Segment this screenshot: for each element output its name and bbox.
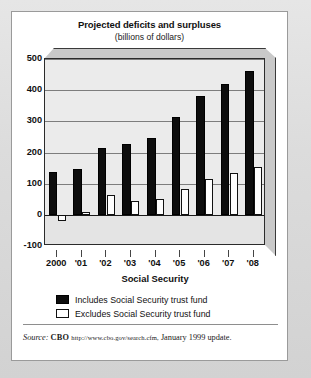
bar-includes-06	[196, 96, 205, 215]
y-axis-tick-label: 200	[12, 147, 42, 157]
figure-container: Projected deficits and surpluses (billio…	[11, 11, 288, 361]
x-axis-tick-mark	[105, 250, 106, 257]
gridline	[45, 90, 264, 91]
x-axis-tick-mark	[155, 250, 156, 257]
y-axis-tick-label: 300	[12, 115, 42, 125]
chart-title: Projected deficits and surpluses	[12, 19, 287, 30]
bar-excludes-03	[131, 201, 139, 215]
bar-includes-04	[147, 138, 156, 215]
x-axis-tick-mark	[228, 250, 229, 257]
bar-includes-03	[122, 144, 131, 215]
x-axis-tick-label: '02	[99, 258, 111, 268]
legend-item-includes: Includes Social Security trust fund	[56, 293, 266, 306]
y-axis-tick-label: -100	[12, 240, 42, 250]
legend-label-excludes: Excludes Social Security trust fund	[75, 309, 210, 319]
plot-area	[44, 48, 276, 256]
y-axis-tick-label: 400	[12, 84, 42, 94]
legend-label-includes: Includes Social Security trust fund	[75, 295, 208, 305]
legend-swatch-dark	[56, 295, 69, 304]
x-axis-tick-mark	[179, 250, 180, 257]
bar-excludes-04	[156, 199, 164, 215]
bar-excludes-08	[254, 167, 262, 215]
bar-excludes-05	[181, 189, 189, 215]
source-organization: CBO	[51, 333, 70, 342]
y-axis-tick-label: 100	[12, 178, 42, 188]
x-axis-tick-mark	[81, 250, 82, 257]
source-divider	[23, 324, 278, 325]
bar-includes-01	[73, 169, 82, 215]
y-axis: 5004003002001000-100	[12, 48, 42, 256]
x-axis-tick-label: '06	[197, 258, 209, 268]
legend-swatch-light	[56, 309, 69, 318]
bar-excludes-2000	[58, 215, 66, 222]
x-axis-tick-mark	[130, 250, 131, 257]
bar-includes-05	[172, 117, 181, 215]
x-axis-tick-label: '08	[247, 258, 259, 268]
source-line: Source: CBO http://www.cbo.gov/search.cf…	[23, 333, 281, 342]
x-axis-tick-label: '03	[124, 258, 136, 268]
source-url: http://www.cbo.gov/search.cfm,	[71, 334, 159, 341]
bar-includes-07	[221, 84, 230, 215]
bar-excludes-07	[230, 173, 238, 214]
x-axis-tick-mark	[253, 250, 254, 257]
bar-excludes-02	[107, 195, 115, 215]
zero-axis-line	[45, 215, 264, 217]
bar-includes-2000	[49, 172, 58, 215]
x-axis-tick-label: '01	[75, 258, 87, 268]
chart-subtitle: (billions of dollars)	[12, 32, 287, 42]
x-axis-tick-mark	[56, 250, 57, 257]
chart-legend: Includes Social Security trust fund Excl…	[56, 293, 266, 321]
x-axis-tick-label: '07	[222, 258, 234, 268]
x-axis-title: Social Security	[44, 273, 266, 284]
gridline	[45, 121, 264, 122]
bar-excludes-06	[205, 179, 213, 215]
bar-excludes-01	[82, 212, 90, 214]
plot-3d-right-panel	[265, 48, 276, 256]
y-axis-tick-label: 0	[12, 209, 42, 219]
plot-face	[44, 58, 265, 245]
gridline	[45, 59, 264, 60]
x-axis: 2000'01'02'03'04'05'06'07'08	[44, 258, 266, 272]
source-label: Source:	[23, 333, 49, 342]
legend-item-excludes: Excludes Social Security trust fund	[56, 307, 266, 320]
bar-includes-02	[98, 148, 107, 214]
source-note: January 1999 update.	[161, 333, 232, 342]
y-axis-tick-label: 500	[12, 53, 42, 63]
x-axis-tick-label: '05	[173, 258, 185, 268]
x-axis-tick-label: 2000	[46, 258, 66, 268]
plot-floor-panel	[45, 215, 264, 244]
bar-includes-08	[245, 71, 254, 215]
x-axis-tick-label: '04	[148, 258, 160, 268]
x-axis-tick-mark	[204, 250, 205, 257]
